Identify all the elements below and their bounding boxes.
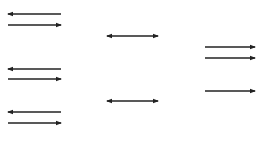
arrow-group bbox=[8, 14, 255, 123]
arrow-column-right bbox=[205, 47, 255, 91]
arrow-column-middle bbox=[107, 36, 158, 101]
faint-caption bbox=[8, 133, 64, 139]
arrow-diagram bbox=[0, 0, 265, 141]
arrow-column-left bbox=[8, 14, 61, 123]
